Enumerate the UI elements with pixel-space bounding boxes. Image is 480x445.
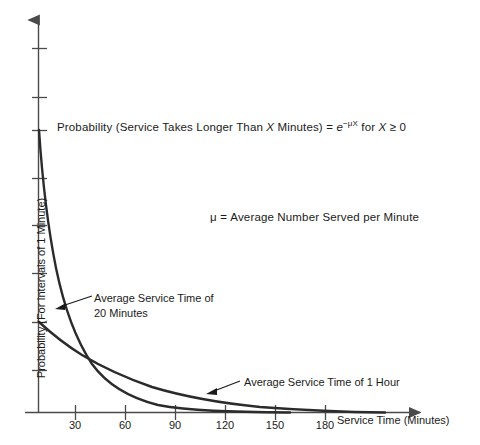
mu-definition-annotation: μ = Average Number Served per Minute (210, 211, 419, 223)
equation-variable-x1: X (266, 121, 274, 133)
equation-suffix: ≥ 0 (386, 121, 406, 133)
curve-1-hour (39, 322, 385, 413)
equation-for: for (358, 121, 379, 133)
equation-prefix: Probability (Service Takes Longer Than (57, 121, 266, 133)
x-tick-label-60: 60 (108, 419, 142, 431)
exponential-service-time-chart: Probability (Service Takes Longer Than X… (0, 0, 480, 445)
mu-definition-label: = Average Number Served per Minute (217, 211, 419, 223)
leader-line-1hour (206, 381, 240, 395)
curve-label-20-minutes: Average Service Time of 20 Minutes (94, 291, 224, 321)
x-tick-label-90: 90 (158, 419, 192, 431)
curve-20-minutes (39, 130, 290, 413)
x-tick-label-150: 150 (258, 419, 292, 431)
x-tick-label-120: 120 (208, 419, 242, 431)
equation-exponent: −μX (343, 119, 358, 128)
x-axis-title: Service Time (Minutes) (337, 414, 449, 426)
leader-line-20min (55, 296, 92, 310)
equation-annotation: Probability (Service Takes Longer Than X… (57, 119, 406, 133)
equation-mid: Minutes) = (274, 121, 336, 133)
y-axis-title: Probability (For Intervals of 1 Minute) (35, 188, 47, 388)
curve-label-1-hour: Average Service Time of 1 Hour (244, 376, 400, 388)
mu-symbol: μ (210, 211, 217, 223)
x-tick-label-30: 30 (58, 419, 92, 431)
